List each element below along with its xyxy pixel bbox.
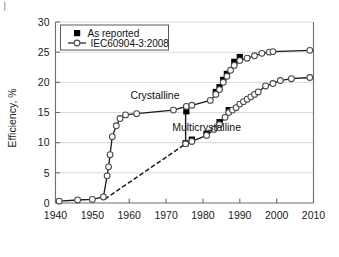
legend-label-iec: IEC60904-3:2008 xyxy=(91,38,170,49)
x-tick-label-1940: 1940 xyxy=(44,209,68,221)
iec-marker-crystalline-28 xyxy=(307,47,313,53)
iec-marker-crystalline-19 xyxy=(224,73,230,79)
iec-marker-crystalline-3 xyxy=(101,194,107,200)
iec-marker-multicrystalline-19 xyxy=(307,75,313,81)
iec-marker-crystalline-12 xyxy=(171,107,177,113)
iec-marker-crystalline-10 xyxy=(123,112,129,118)
legend-marker-iec xyxy=(74,40,80,46)
iec-marker-crystalline-4 xyxy=(104,173,110,179)
iec-marker-crystalline-25 xyxy=(259,50,265,56)
x-tick-label-1960: 1960 xyxy=(118,209,142,221)
chart-canvas: 19401950196019701980199020002010 0510152… xyxy=(0,0,339,257)
y-tick-label-5: 5 xyxy=(44,167,50,179)
efficiency-chart: 19401950196019701980199020002010 0510152… xyxy=(0,0,339,257)
iec-marker-crystalline-1 xyxy=(75,197,81,203)
iec-marker-crystalline-27 xyxy=(270,49,276,55)
annotation-crystalline: Crystalline xyxy=(131,89,180,101)
y-tick-label-10: 10 xyxy=(38,136,50,148)
iec-marker-crystalline-23 xyxy=(244,55,250,61)
y-tick-label-20: 20 xyxy=(38,76,50,88)
x-tick-label-1950: 1950 xyxy=(81,209,105,221)
iec-marker-crystalline-7 xyxy=(109,134,115,140)
y-tick-label-25: 25 xyxy=(38,46,50,58)
iec-marker-crystalline-0 xyxy=(56,198,62,204)
iec-marker-crystalline-24 xyxy=(252,53,258,59)
iec-marker-multicrystalline-18 xyxy=(288,76,294,82)
iec-marker-crystalline-21 xyxy=(231,63,237,69)
y-tick-label-30: 30 xyxy=(38,16,50,28)
x-tick-label-1970: 1970 xyxy=(154,209,178,221)
iec-marker-crystalline-11 xyxy=(134,111,140,117)
iec-marker-crystalline-17 xyxy=(217,87,223,93)
iec-marker-crystalline-6 xyxy=(107,152,113,158)
iec-marker-crystalline-15 xyxy=(207,98,213,104)
iec-marker-crystalline-14 xyxy=(189,102,195,108)
iec-marker-crystalline-2 xyxy=(89,196,95,202)
y-tick-label-15: 15 xyxy=(38,106,50,118)
iec-marker-crystalline-8 xyxy=(113,123,119,129)
iec-marker-crystalline-22 xyxy=(237,58,243,64)
y-axis-title: Efficiency, % xyxy=(6,88,18,147)
legend-marker-as-reported xyxy=(74,30,80,36)
iec-marker-multicrystalline-1 xyxy=(189,139,195,145)
x-tick-label-2000: 2000 xyxy=(265,209,289,221)
iec-marker-multicrystalline-16 xyxy=(270,81,276,87)
iec-marker-crystalline-13 xyxy=(183,104,189,110)
iec-marker-multicrystalline-2 xyxy=(204,133,210,139)
iec-marker-multicrystalline-0 xyxy=(183,141,189,147)
x-tick-label-2010: 2010 xyxy=(302,209,326,221)
chart-legend: As reportedIEC60904-3:2008 xyxy=(61,25,170,50)
x-tick-label-1980: 1980 xyxy=(191,209,215,221)
scan-artifact-mark xyxy=(4,2,6,11)
x-tick-label-1990: 1990 xyxy=(228,209,252,221)
iec-marker-crystalline-9 xyxy=(117,116,123,122)
y-tick-label-0: 0 xyxy=(44,197,50,209)
iec-marker-multicrystalline-17 xyxy=(277,78,283,84)
iec-marker-multicrystalline-15 xyxy=(263,83,269,89)
iec-marker-crystalline-18 xyxy=(220,79,226,85)
iec-marker-crystalline-5 xyxy=(106,164,112,170)
annotation-multicrystalline: Multicrystalline xyxy=(172,121,241,133)
iec-marker-multicrystalline-14 xyxy=(255,89,261,95)
